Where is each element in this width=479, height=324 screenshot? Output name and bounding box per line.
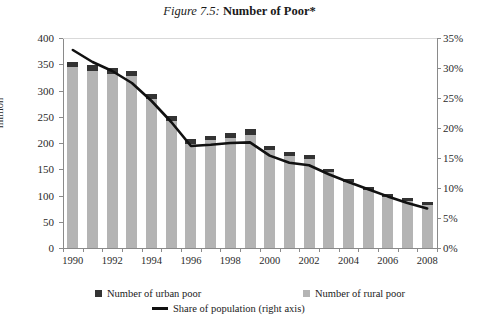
left-axis-tick-label: 350 [18,59,54,69]
left-axis-tick-label: 150 [18,164,54,174]
figure-title-text: Number of Poor* [223,4,316,18]
legend-label-rural-poor: Number of rural poor [315,288,405,299]
legend-item-rural-poor: Number of rural poor [303,288,405,299]
left-axis-tick-label: 400 [18,33,54,43]
right-axis-tick-label: 35% [443,33,477,43]
x-axis-tick-label: 2002 [289,255,329,266]
left-axis-tick-label: 250 [18,112,54,122]
x-axis-tick-label: 1990 [53,255,93,266]
right-axis-tick-label: 25% [443,93,477,103]
x-axis-tick [220,248,221,252]
x-axis-tick [378,248,379,252]
x-axis-tick [161,248,162,252]
left-axis-tick-label: 300 [18,86,54,96]
x-axis-tick [339,248,340,252]
x-axis-tick [437,248,438,252]
right-axis-tick-label: 5% [443,213,477,223]
x-axis-tick [398,248,399,252]
x-axis-tick-label: 1992 [92,255,132,266]
x-axis-tick-label: 1998 [210,255,250,266]
right-axis-tick [437,158,441,159]
x-axis-tick [299,248,300,252]
x-axis-tick [240,248,241,252]
legend-item-urban-poor: Number of urban poor [95,288,201,299]
left-axis-tick-label: 0 [18,243,54,253]
share-line-layer [63,38,437,248]
x-axis-tick [142,248,143,252]
right-axis-tick-label: 30% [443,63,477,73]
x-axis-line [63,248,438,249]
figure-title: Figure 7.5: Number of Poor* [0,4,479,19]
share-of-population-line [73,50,427,208]
x-axis-tick-label: 2000 [250,255,290,266]
x-axis-tick [83,248,84,252]
x-axis-tick [122,248,123,252]
x-axis-tick-label: 2008 [407,255,447,266]
x-axis-tick-label: 1996 [171,255,211,266]
left-axis-tick-label: 200 [18,138,54,148]
figure-number: Figure 7.5: [163,4,219,18]
right-axis-tick [437,218,441,219]
share-line-swatch-icon [152,307,168,310]
right-axis-tick-label: 0% [443,243,477,253]
right-axis-tick-label: 20% [443,123,477,133]
x-axis-tick [358,248,359,252]
x-axis-tick [319,248,320,252]
right-axis-tick [437,188,441,189]
x-axis-tick [201,248,202,252]
x-axis-tick [417,248,418,252]
x-axis-tick [102,248,103,252]
x-axis-tick [181,248,182,252]
urban-poor-swatch-icon [95,290,102,297]
left-axis-tick-label: 100 [18,191,54,201]
plot-area [63,38,437,248]
legend-item-share-of-population: Share of population (right axis) [152,303,305,314]
figure-container: Figure 7.5: Number of Poor* million 0501… [0,0,479,324]
right-axis-tick [437,38,441,39]
legend-label-share-of-population: Share of population (right axis) [173,303,305,314]
x-axis-tick [280,248,281,252]
right-axis-tick [437,128,441,129]
x-axis-tick-label: 1994 [132,255,172,266]
x-axis-tick-label: 2004 [328,255,368,266]
right-axis-tick-label: 10% [443,183,477,193]
right-axis-tick [437,98,441,99]
x-axis-tick-label: 2006 [368,255,408,266]
left-axis-tick-label: 50 [18,217,54,227]
rural-poor-swatch-icon [303,290,310,297]
right-axis-tick [437,68,441,69]
x-axis-tick [260,248,261,252]
legend-label-urban-poor: Number of urban poor [107,288,201,299]
right-axis-tick-label: 15% [443,153,477,163]
y-axis-title: million [0,98,5,128]
x-axis-tick [63,248,64,252]
